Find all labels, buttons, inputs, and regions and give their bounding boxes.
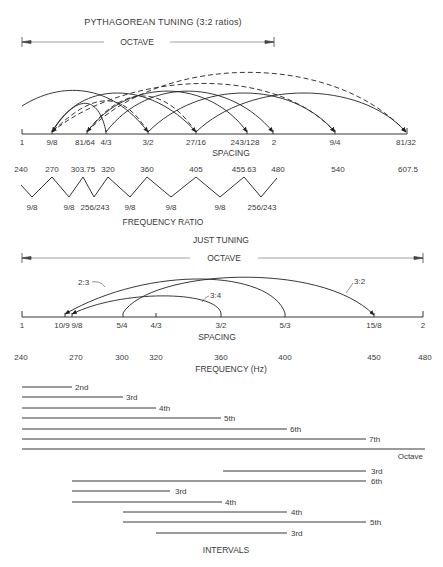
interval-label: 6th: [290, 425, 301, 434]
tick-label: 15/8: [366, 321, 382, 330]
tick-label: 5/3: [279, 321, 291, 330]
interval-label: 4th: [159, 404, 170, 413]
ratio-label: 9/8: [165, 203, 177, 212]
ratio-label: 9/8: [63, 203, 75, 212]
tick-label: 5/4: [116, 321, 128, 330]
pythagorean-arcs: [22, 72, 406, 132]
tick-label: 81/32: [396, 138, 417, 147]
pythagorean-axis: [22, 128, 407, 134]
intervals-title: INTERVALS: [203, 545, 250, 555]
interval-label: 5th: [224, 414, 235, 423]
interval-label: 3rd: [175, 487, 187, 496]
tick-label: 4/3: [100, 138, 112, 147]
tick-label: 27/16: [186, 138, 207, 147]
ratio-label: 9/8: [26, 203, 38, 212]
freq-label: 240: [14, 353, 28, 362]
just-octave-label: OCTAVE: [207, 253, 241, 263]
freq-label: 300: [115, 353, 129, 362]
tick-label: 9/8: [71, 321, 83, 330]
freq-label: 455.63: [232, 165, 257, 174]
freq-label: 360: [140, 165, 154, 174]
tuning-diagram: PYTHAGOREAN TUNING (3:2 ratios) OCTAVE: [0, 0, 443, 567]
ratio-label: 256/243: [81, 203, 110, 212]
freq-label: 360: [214, 353, 228, 362]
pythagorean-spacing-label: SPACING: [212, 148, 250, 158]
interval-label: 6th: [371, 477, 382, 486]
arc-label: 2:3: [78, 278, 90, 287]
interval-label: 4th: [225, 498, 236, 507]
interval-bars: [22, 387, 425, 533]
interval-label: Octave: [398, 452, 424, 461]
freq-label: 540: [331, 165, 345, 174]
interval-label: 3rd: [371, 467, 383, 476]
pythagorean-frequencies: 240 270 303.75 320 360 405 455.63 480 54…: [14, 165, 418, 174]
tick-label: 2: [421, 321, 426, 330]
freq-label: 450: [367, 353, 381, 362]
interval-label: 7th: [369, 435, 380, 444]
freq-label: 480: [271, 165, 285, 174]
arc-label: 3:2: [354, 277, 366, 286]
interval-label: 4th: [291, 508, 302, 517]
frequency-ratio-label: FREQUENCY RATIO: [123, 217, 204, 227]
interval-label: 3rd: [291, 529, 303, 538]
freq-label: 240: [14, 165, 28, 174]
tick-label: 9/8: [46, 138, 58, 147]
interval-label: 5th: [370, 518, 381, 527]
just-title: JUST TUNING: [193, 235, 249, 245]
frequency-zigzag: [21, 177, 277, 197]
frequency-hz-label: FREQUENCY (Hz): [195, 364, 267, 374]
freq-label: 270: [45, 165, 59, 174]
tick-label: 2: [272, 138, 277, 147]
pythagorean-tick-labels: 1 9/8 81/64 4/3 3/2 27/16 243/128 2 9/4 …: [20, 138, 417, 147]
tick-label: 10/9: [54, 321, 70, 330]
freq-label: 270: [69, 353, 83, 362]
tick-label: 3/2: [215, 321, 227, 330]
step-ratio-labels: 9/8 9/8 256/243 9/8 9/8 9/8 256/243: [26, 203, 277, 212]
freq-label: 400: [278, 353, 292, 362]
tick-label: 4/3: [150, 321, 162, 330]
pythagorean-octave-label: OCTAVE: [120, 37, 154, 47]
pythagorean-title: PYTHAGOREAN TUNING (3:2 ratios): [84, 17, 242, 27]
just-spacing-label: SPACING: [198, 332, 236, 342]
ratio-label: 256/243: [248, 203, 277, 212]
freq-label: 320: [101, 165, 115, 174]
ratio-label: 9/8: [124, 203, 136, 212]
freq-label: 607.5: [398, 165, 419, 174]
interval-labels: 2nd 3rd 4th 5th 6th 7th Octave 3rd 6th 3…: [75, 383, 424, 538]
tick-label: 243/128: [231, 138, 260, 147]
just-arc-labels: 2:3 3:4 3:2: [78, 277, 366, 302]
arc-label: 3:4: [210, 291, 222, 300]
freq-label: 303.75: [71, 165, 96, 174]
tick-label: 3/2: [142, 138, 154, 147]
tick-label: 9/4: [329, 138, 341, 147]
tick-label: 1: [20, 321, 25, 330]
just-frequencies: 240 270 300 320 360 400 450 480: [14, 353, 432, 362]
interval-label: 2nd: [75, 383, 88, 392]
interval-label: 3rd: [126, 393, 138, 402]
tick-label: 1: [20, 138, 25, 147]
freq-label: 320: [149, 353, 163, 362]
just-tick-labels: 1 10/9 9/8 5/4 4/3 3/2 5/3 15/8 2: [20, 321, 426, 330]
freq-label: 405: [189, 165, 203, 174]
ratio-label: 9/8: [214, 203, 226, 212]
tick-label: 81/64: [75, 138, 96, 147]
freq-label: 480: [418, 353, 432, 362]
just-axis: [22, 311, 423, 317]
